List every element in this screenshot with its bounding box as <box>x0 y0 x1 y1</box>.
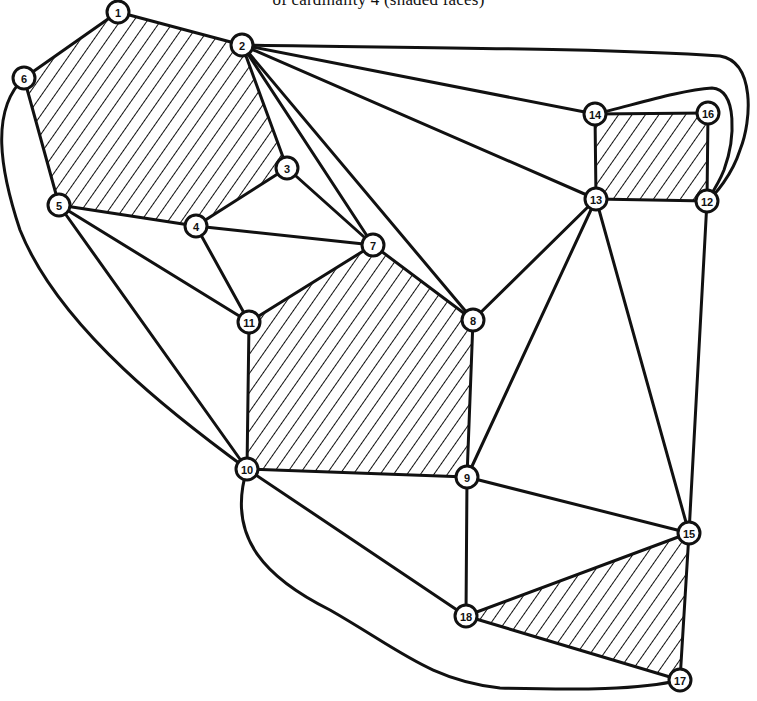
vertex-label: 13 <box>590 194 602 206</box>
vertex-12: 12 <box>696 190 718 212</box>
vertex-label: 12 <box>701 196 713 208</box>
vertex-label: 17 <box>674 675 686 687</box>
vertex-label: 18 <box>460 611 472 623</box>
vertex-label: 8 <box>470 315 476 327</box>
edge-10-18 <box>247 469 466 616</box>
vertex-label: 1 <box>115 7 121 19</box>
edge-8-13 <box>473 199 596 320</box>
face-15-17-18 <box>466 533 689 680</box>
edge-12-15 <box>689 201 707 533</box>
vertex-label: 10 <box>241 464 253 476</box>
edge-9-13 <box>467 199 596 477</box>
edge-4-7 <box>196 226 373 245</box>
vertex-16: 16 <box>697 102 719 124</box>
vertex-7: 7 <box>362 234 384 256</box>
vertex-3: 3 <box>276 157 298 179</box>
vertex-11: 11 <box>238 311 260 333</box>
vertex-1: 1 <box>107 1 129 23</box>
edge-13-15 <box>596 199 689 533</box>
vertex-label: 15 <box>683 528 695 540</box>
edge-13-12 <box>596 199 707 201</box>
vertex-label: 9 <box>464 472 470 484</box>
vertex-label: 14 <box>589 109 602 121</box>
edge-4-11 <box>196 226 249 322</box>
edge-10-11 <box>247 322 249 469</box>
vertex-13: 13 <box>585 188 607 210</box>
edge-5-11 <box>59 205 249 322</box>
vertex-label: 7 <box>370 240 376 252</box>
edge-14-16 <box>595 113 708 114</box>
vertex-18: 18 <box>455 605 477 627</box>
face-14-16-12-13 <box>595 113 708 201</box>
vertex-label: 2 <box>239 40 245 52</box>
vertex-label: 11 <box>243 317 255 329</box>
planar-graph: 123456789101112131415161718 <box>0 0 757 701</box>
vertex-2: 2 <box>231 34 253 56</box>
vertex-label: 5 <box>56 200 62 212</box>
edge-13-14 <box>595 114 596 199</box>
vertex-10: 10 <box>236 458 258 480</box>
vertex-6: 6 <box>13 67 35 89</box>
edge-9-18 <box>466 477 467 616</box>
edge-2-14 <box>242 45 595 114</box>
vertex-label: 3 <box>284 163 290 175</box>
edge-5-10 <box>59 205 247 469</box>
vertex-label: 6 <box>21 73 27 85</box>
vertex-14: 14 <box>584 103 606 125</box>
vertex-4: 4 <box>185 215 207 237</box>
vertex-9: 9 <box>456 466 478 488</box>
vertex-5: 5 <box>48 194 70 216</box>
vertex-label: 16 <box>702 108 714 120</box>
edge-16-12 <box>707 113 708 201</box>
vertex-17: 17 <box>669 669 691 691</box>
vertex-8: 8 <box>462 309 484 331</box>
vertex-15: 15 <box>678 522 700 544</box>
edge-9-15 <box>467 477 689 533</box>
vertex-label: 4 <box>193 221 200 233</box>
